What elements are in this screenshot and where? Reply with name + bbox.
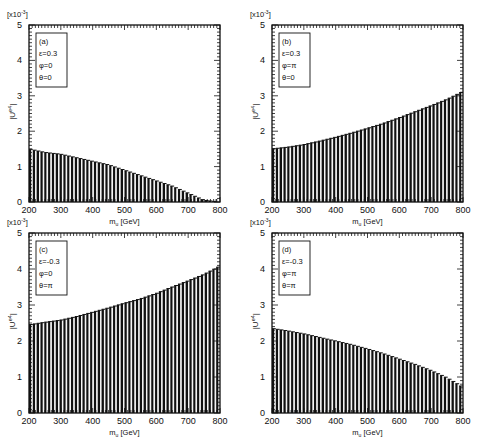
- x-tick-label: 700: [424, 416, 439, 426]
- bar: [398, 118, 400, 202]
- bar: [94, 162, 96, 202]
- bar: [440, 375, 442, 413]
- bar: [98, 163, 100, 202]
- bar-gap: [297, 333, 298, 413]
- figure-canvas: 200300400500600700800012345[x10-3]|Ue4|m…: [0, 0, 477, 443]
- bar-gap: [286, 331, 287, 413]
- bar: [125, 303, 127, 413]
- bar: [310, 336, 312, 413]
- x-tick-label: 600: [392, 205, 407, 215]
- bar: [291, 332, 293, 413]
- bar: [128, 302, 130, 413]
- y-multiplier-label: [x10-3]: [250, 9, 271, 19]
- legend-entry: φ=π: [282, 269, 296, 278]
- bar: [48, 322, 50, 413]
- bar-gap: [366, 129, 367, 202]
- bar-gap: [374, 351, 375, 413]
- bar: [295, 333, 297, 413]
- bar-gap: [404, 361, 405, 413]
- bar: [167, 289, 169, 413]
- bar: [455, 94, 457, 202]
- bar-gap: [389, 122, 390, 202]
- panel-a: 200300400500600700800012345[x10-3]|Ue4|m…: [7, 9, 228, 227]
- bar: [379, 124, 381, 202]
- bar-gap: [73, 317, 74, 413]
- bar: [167, 185, 169, 202]
- bar-gap: [77, 317, 78, 413]
- x-tick-label: 300: [296, 205, 311, 215]
- x-tick-label: 400: [328, 416, 343, 426]
- y-tick-label: 1: [260, 372, 265, 382]
- legend-entry: ε=-0.3: [282, 257, 303, 266]
- bar: [448, 98, 450, 202]
- x-tick-label: 700: [181, 205, 196, 215]
- legend-box: (d)ε=-0.3φ=πθ=π: [279, 241, 310, 295]
- x-tick-label: 400: [85, 205, 100, 215]
- bar-gap: [58, 321, 59, 413]
- bar: [71, 317, 73, 413]
- y-tick-label: 5: [260, 20, 265, 30]
- bar-gap: [378, 125, 379, 202]
- bar: [280, 148, 282, 202]
- bar: [440, 101, 442, 202]
- bar: [109, 166, 111, 202]
- bar-gap: [50, 153, 51, 202]
- bar-gap: [196, 278, 197, 413]
- bar-gap: [305, 145, 306, 202]
- bar: [318, 337, 320, 413]
- x-tick-label: 300: [296, 416, 311, 426]
- bar: [79, 315, 81, 413]
- bar-gap: [293, 332, 294, 413]
- bar: [421, 109, 423, 202]
- bar: [151, 295, 153, 413]
- x-tick-label: 700: [181, 416, 196, 426]
- bar-gap: [416, 112, 417, 202]
- x-axis-label: mu [GeV]: [352, 217, 382, 227]
- bar: [444, 377, 446, 413]
- bar: [429, 106, 431, 202]
- bar: [113, 306, 115, 413]
- bar: [333, 137, 335, 202]
- bar-gap: [435, 104, 436, 202]
- bar: [144, 297, 146, 413]
- bar: [79, 159, 81, 202]
- y-tick-label: 1: [17, 162, 22, 172]
- bar: [186, 281, 188, 413]
- panel-c: 200300400500600700800012345[x10-3]|Ue4|m…: [7, 217, 228, 438]
- bar-gap: [446, 377, 447, 413]
- x-tick-label: 200: [264, 205, 279, 215]
- bar-gap: [50, 322, 51, 413]
- bar: [67, 156, 69, 202]
- bar-gap: [138, 300, 139, 413]
- bar: [402, 116, 404, 202]
- bar: [75, 158, 77, 202]
- x-tick-label: 600: [149, 205, 164, 215]
- panel-b: 200300400500600700800012345[x10-3]|Ue4|m…: [250, 9, 471, 227]
- bar-gap: [408, 115, 409, 202]
- bar-gap: [427, 107, 428, 202]
- bar-gap: [355, 132, 356, 202]
- bar: [341, 343, 343, 413]
- legend-entry: (d): [282, 245, 292, 254]
- bar-gap: [328, 139, 329, 202]
- bar-gap: [115, 306, 116, 413]
- bar-gap: [442, 375, 443, 413]
- bar: [193, 278, 195, 413]
- bar-gap: [54, 153, 55, 202]
- bar: [364, 129, 366, 202]
- bar: [147, 296, 149, 413]
- bar-gap: [115, 167, 116, 202]
- bar-gap: [89, 160, 90, 202]
- bar-gap: [290, 331, 291, 413]
- legend-entry: φ=π: [282, 61, 296, 70]
- y-tick-label: 4: [17, 55, 22, 65]
- bar: [44, 322, 46, 413]
- bar: [303, 145, 305, 202]
- bar: [163, 290, 165, 413]
- bar: [90, 161, 92, 202]
- bar: [364, 348, 366, 413]
- legend-entry: (a): [39, 37, 49, 46]
- bar: [398, 359, 400, 413]
- bar-gap: [458, 384, 459, 413]
- bar-gap: [81, 315, 82, 413]
